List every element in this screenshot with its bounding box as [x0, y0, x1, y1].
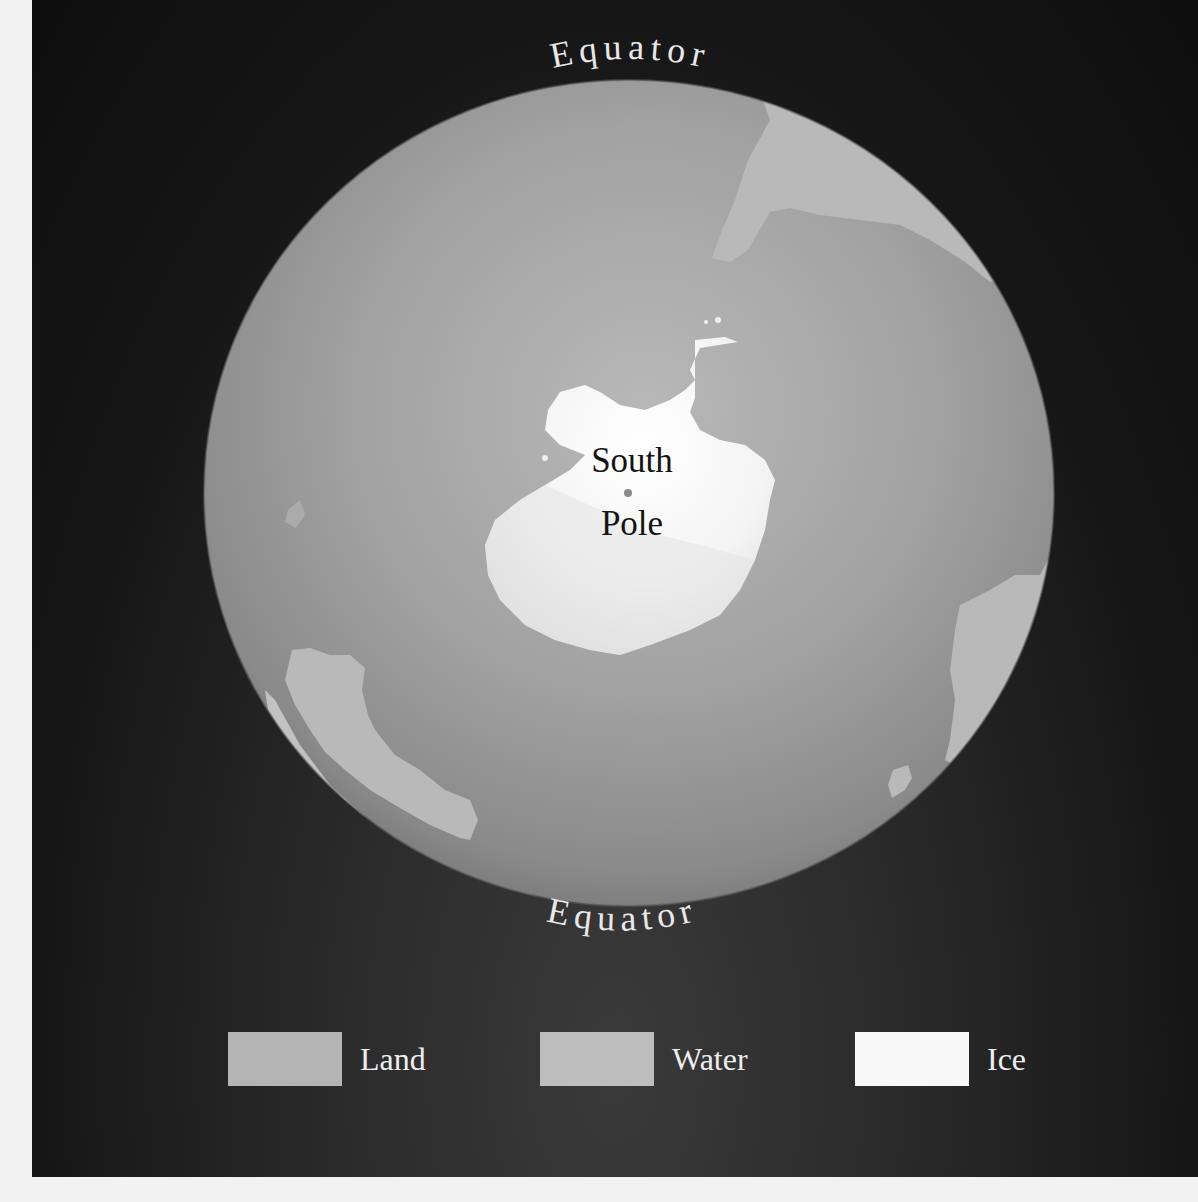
pole-label: Pole [601, 504, 663, 543]
legend-item-land: Land [228, 1032, 426, 1086]
ice-fleck [715, 317, 721, 323]
ice-fleck [542, 455, 548, 461]
south-pole-marker [624, 489, 632, 497]
legend-label-water: Water [672, 1041, 748, 1078]
legend-label-ice: Ice [987, 1041, 1026, 1078]
globe-map: South Pole Equator Equator [0, 0, 1198, 1202]
legend-item-water: Water [540, 1032, 748, 1086]
south-label: South [591, 441, 673, 480]
ice-fleck [704, 320, 708, 324]
legend-label-land: Land [360, 1041, 426, 1078]
map-legend: Land Water Ice [0, 1032, 1198, 1086]
equator-label-top: Equator [546, 27, 713, 76]
legend-item-ice: Ice [855, 1032, 1026, 1086]
land-swatch [228, 1032, 342, 1086]
water-swatch [540, 1032, 654, 1086]
ice-swatch [855, 1032, 969, 1086]
